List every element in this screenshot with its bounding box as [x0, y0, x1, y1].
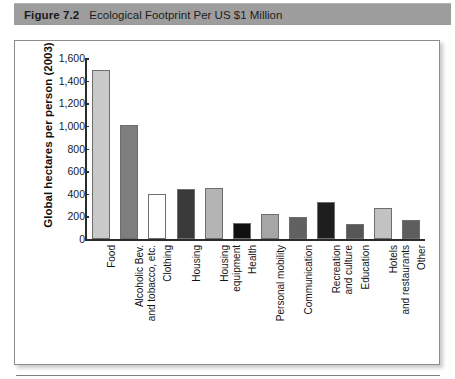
x-axis-label: Education	[360, 245, 372, 289]
x-axis-labels: FoodAlcoholic Bev.and tobacco, etc.Cloth…	[87, 241, 425, 366]
bar	[289, 217, 307, 239]
bar	[346, 224, 364, 239]
x-axis-label-line: Clothing	[162, 245, 173, 282]
figure-caption-bar: Figure 7.2 Ecological Footprint Per US $…	[14, 3, 451, 25]
x-axis-label-line: and culture	[343, 245, 355, 294]
x-axis-label: Housingequipment	[219, 245, 242, 292]
bar	[120, 125, 138, 239]
x-axis-label-line: Hotels	[388, 245, 399, 273]
figure-number: Figure 7.2	[24, 9, 79, 21]
x-axis-label-line: Health	[247, 245, 258, 274]
y-axis-tick-label: 800	[21, 143, 85, 155]
y-axis-tick-label: 1,600	[21, 52, 85, 64]
x-axis-label-line: Education	[360, 245, 371, 289]
bar	[317, 202, 335, 239]
bar	[148, 194, 166, 239]
bar	[374, 208, 392, 239]
x-axis-label: Food	[106, 245, 118, 268]
x-axis-label-line: Recreation	[331, 245, 342, 293]
bar	[177, 189, 195, 239]
x-axis-label-line: Alcoholic Bev.	[134, 245, 145, 307]
figure-frame: Global hectares per person (2003) 020040…	[14, 40, 440, 365]
page-bottom-rule	[16, 375, 440, 376]
bar	[402, 220, 420, 239]
y-axis-tick-label: 1,400	[21, 75, 85, 87]
x-axis-label-line: Communication	[303, 245, 314, 314]
x-axis-label: Other	[416, 245, 428, 270]
y-axis-tick-label: 1,000	[21, 120, 85, 132]
bar	[233, 223, 251, 239]
x-axis-label: Housing	[191, 245, 203, 282]
x-axis-label: Communication	[303, 245, 315, 314]
x-axis-label: Personal mobility	[275, 245, 287, 321]
x-axis-label: Recreationand culture	[331, 245, 354, 294]
y-axis-tick-label: 600	[21, 165, 85, 177]
x-axis-label-line: and restaurants	[399, 245, 411, 315]
x-axis-label-line: Food	[106, 245, 117, 268]
x-axis-label-line: and tobacco, etc.	[146, 245, 158, 321]
y-axis-tick-label: 400	[21, 188, 85, 200]
y-axis-tick-label: 1,200	[21, 97, 85, 109]
y-axis-tick-label: 200	[21, 210, 85, 222]
x-axis-label-line: Housing	[191, 245, 202, 282]
bar-group	[87, 41, 425, 240]
x-axis-label-line: equipment	[230, 245, 242, 292]
x-axis-label: Clothing	[162, 245, 174, 282]
x-axis-label: Health	[247, 245, 259, 274]
y-axis-tick-label: 0	[21, 233, 85, 245]
x-axis-label-line: Housing	[219, 245, 230, 282]
bar-chart: Global hectares per person (2003) 020040…	[15, 41, 441, 366]
x-axis-label: Hotelsand restaurants	[388, 245, 411, 315]
bar	[261, 214, 279, 239]
x-axis-label: Alcoholic Bev.and tobacco, etc.	[134, 245, 157, 321]
figure-title: Ecological Footprint Per US $1 Million	[89, 9, 282, 21]
bar	[205, 188, 223, 239]
bar	[92, 70, 110, 239]
x-axis-label-line: Personal mobility	[275, 245, 286, 321]
x-axis-label-line: Other	[416, 245, 427, 270]
y-axis-ticks: 02004006008001,0001,2001,4001,600	[15, 41, 85, 366]
figure-page: Figure 7.2 Ecological Footprint Per US $…	[0, 0, 455, 379]
